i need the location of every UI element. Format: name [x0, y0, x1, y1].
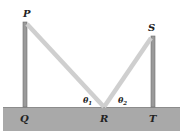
wire-rs: [104, 38, 151, 107]
label-theta1: θ1: [83, 95, 92, 106]
label-r: R: [99, 113, 108, 124]
diagram-canvas: P S Q R T θ1 θ2: [0, 0, 182, 137]
pole-pq: [23, 22, 27, 107]
pole-st: [151, 36, 155, 107]
label-p: P: [22, 8, 31, 19]
wire-pr: [27, 24, 104, 107]
label-s: S: [148, 22, 155, 33]
label-q: Q: [20, 113, 29, 124]
label-theta2: θ2: [118, 95, 127, 106]
